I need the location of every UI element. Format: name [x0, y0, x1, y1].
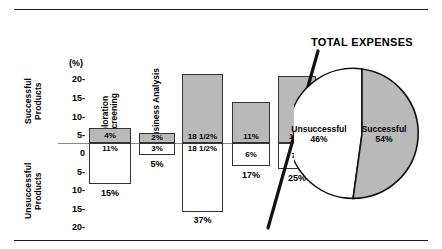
bar-total-exploration: 15%: [101, 188, 119, 198]
pie-label-successful-value: 54%: [375, 134, 392, 144]
bar-segment-unsuccessful-development[interactable]: 18 1/2%: [182, 143, 223, 212]
bar-value-successful-development: 18 1/2%: [188, 133, 217, 141]
bar-value-unsuccessful-exploration: 11%: [102, 145, 118, 153]
pie-label-successful: Successful 54%: [352, 124, 416, 144]
bar-segment-unsuccessful-exploration[interactable]: 11%: [89, 143, 131, 184]
bar-value-successful-exploration: 4%: [104, 132, 116, 140]
pie-label-unsuccessful-value: 46%: [310, 134, 327, 144]
pie-label-unsuccessful-name: Unsuccessful: [291, 124, 346, 134]
bar-plot-area: Exploration & Screening 4% 11% 15% Busin…: [0, 0, 262, 249]
pie-chart: TOTAL EXPENSES Unsuccessful 46% Successf…: [282, 0, 442, 249]
bar-total-development: 37%: [193, 215, 211, 225]
bar-segment-successful-business-analysis[interactable]: 2%: [139, 133, 175, 143]
column-header-business-analysis: Business Analysis: [152, 68, 162, 143]
bar-value-unsuccessful-development: 18 1/2%: [188, 145, 217, 153]
bar-segment-successful-exploration[interactable]: 4%: [89, 128, 131, 143]
pie-label-unsuccessful: Unsuccessful 46%: [286, 124, 352, 144]
bar-value-successful-business-analysis: 2%: [151, 134, 163, 142]
bar-chart: Successful Products Unsuccessful Product…: [0, 0, 262, 249]
pie-label-successful-name: Successful: [362, 124, 407, 134]
pie-chart-title: TOTAL EXPENSES: [282, 36, 442, 49]
bar-total-business-analysis: 5%: [150, 159, 163, 169]
bar-segment-successful-development[interactable]: 18 1/2%: [182, 74, 223, 143]
bar-segment-unsuccessful-business-analysis[interactable]: 3%: [139, 143, 175, 155]
bar-value-unsuccessful-business-analysis: 3%: [151, 145, 163, 153]
